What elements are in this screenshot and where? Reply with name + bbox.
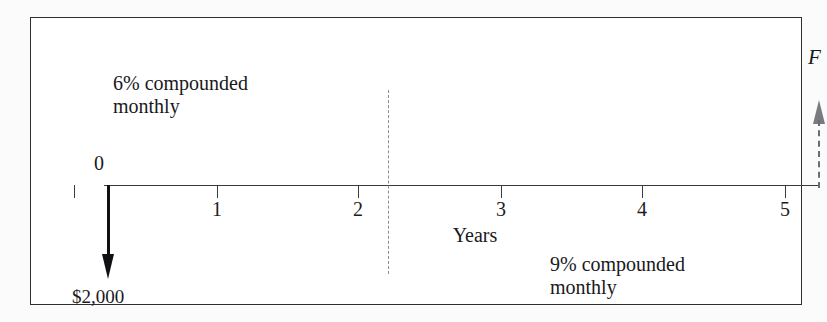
- outflow-amount-label: $2,000: [72, 286, 124, 308]
- outflow-arrow-head: [102, 254, 114, 279]
- tick-label: 5: [765, 197, 805, 221]
- rate-change-divider: [388, 90, 389, 274]
- future-value-label: F: [808, 45, 821, 70]
- figure-panel: 1 2 3 4 5 0 $2,000 F 6% compounded month…: [30, 17, 802, 305]
- tick-label: 3: [481, 197, 521, 221]
- tick-label: 2: [338, 197, 378, 221]
- period-zero-label: 0: [94, 152, 104, 175]
- tick-label: 4: [622, 197, 662, 221]
- tick-label: 1: [197, 197, 237, 221]
- inflow-arrow-icon: [813, 100, 827, 188]
- cash-flow-figure: 1 2 3 4 5 0 $2,000 F 6% compounded month…: [0, 0, 827, 322]
- tick-mark: [74, 185, 75, 198]
- inflow-arrow-stem: [818, 120, 820, 188]
- outflow-arrow-icon: [102, 185, 116, 279]
- timeline-axis: [104, 185, 820, 186]
- outflow-arrow-stem: [107, 185, 110, 257]
- axis-title-years: Years: [440, 224, 510, 247]
- left-rate-annotation: 6% compounded monthly: [113, 72, 248, 118]
- right-rate-annotation: 9% compounded monthly: [550, 253, 685, 299]
